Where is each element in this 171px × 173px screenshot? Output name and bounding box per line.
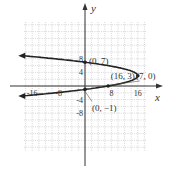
x-tick-label: 16: [134, 89, 142, 98]
point-label: (0, 7): [89, 56, 109, 66]
point-label: (7, 0): [136, 71, 156, 81]
data-point: [106, 84, 110, 88]
y-tick-label: -8: [76, 109, 83, 118]
y-tick-label: 4: [79, 68, 83, 77]
x-axis-label: x: [154, 91, 160, 103]
y-axis-arrow-icon: [83, 3, 88, 10]
parabola-graph: xy-16-881684-4-8(0, 7)(16, 3)(7, 0)(0, −…: [0, 0, 171, 173]
point-label: (0, −1): [92, 103, 117, 113]
x-tick-label: -8: [55, 89, 62, 98]
y-tick-label: -4: [76, 96, 83, 105]
point-label: (16, 3): [111, 71, 135, 81]
curve-arrow-bottom-icon: [18, 93, 25, 99]
curve-arrow-top-icon: [18, 53, 25, 59]
leader-line: [110, 81, 140, 85]
x-axis-arrow-icon: [156, 84, 163, 89]
data-point: [83, 88, 87, 92]
x-tick-label: -16: [27, 89, 38, 98]
data-point: [83, 60, 87, 64]
y-axis-label: y: [90, 2, 96, 14]
x-tick-label: 8: [109, 89, 113, 98]
